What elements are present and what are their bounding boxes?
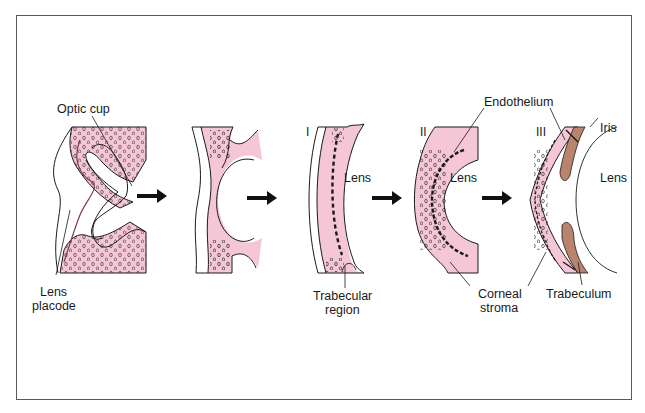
label-trabeculum: Trabeculum [546,287,612,301]
label-trabecular-1: Trabecular [313,289,372,303]
lens-outline [576,127,617,273]
arrow-icon [482,191,512,205]
label-endothelium: Endothelium [484,95,554,109]
label-optic-cup: Optic cup [57,102,110,116]
label-lens-placode-2: placode [32,299,76,313]
eye-development-diagram: Optic cup Lens placode I [0,0,645,413]
stage-I-drawing [309,124,364,288]
stage-label-III: III [536,125,546,139]
label-corneal-1: Corneal [478,287,522,301]
label-corneal-2: stroma [480,301,518,315]
stage-label-I: I [306,125,309,139]
arrow-icon [372,191,402,205]
stage-label-II: II [420,125,427,139]
label-iris: Iris [600,121,617,135]
arrow-icon [137,189,167,203]
label-lens-III: Lens [600,171,627,185]
label-lens-II: Lens [450,171,477,185]
stage-0-drawing [54,116,146,275]
label-trabecular-2: region [325,303,360,317]
arrow-icon [247,191,277,205]
label-lens-placode-1: Lens [40,285,67,299]
label-lens-I: Lens [344,171,371,185]
